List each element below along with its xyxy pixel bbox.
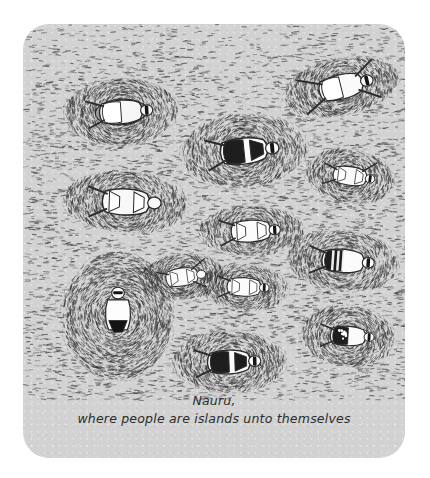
sunbather-figure (106, 287, 131, 332)
sunbather-figure (156, 259, 209, 294)
caption: Nauru, where people are islands unto the… (23, 392, 405, 428)
sunbather-figure (296, 59, 381, 115)
sunbather-figure (195, 348, 262, 377)
cartoon-frame: Nauru, where people are islands unto the… (0, 0, 430, 478)
cartoon-card: Nauru, where people are islands unto the… (23, 24, 405, 458)
sunbather-figures-layer (23, 24, 405, 404)
sunbather-figure (86, 97, 153, 128)
sunbather-figure (217, 276, 269, 299)
sunbather-figure (219, 218, 281, 246)
figures-group (86, 59, 381, 377)
sunbather-figure (309, 246, 375, 277)
sunbather-figure (205, 133, 280, 170)
sunbather-figure (322, 156, 377, 191)
caption-line-1: Nauru, (23, 392, 405, 410)
sunbather-figure (88, 187, 161, 219)
caption-line-2: where people are islands unto themselves (23, 410, 405, 428)
sunbather-figure (320, 324, 375, 349)
